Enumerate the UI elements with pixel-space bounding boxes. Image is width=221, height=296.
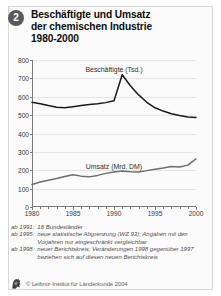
footnote-row: ab 1998:neuer Berichtskreis; Veränderung… [11,246,199,261]
title-line-2: der chemischen Industrie [31,21,152,33]
x-axis-tick-mark [57,207,58,209]
y-axis-tick-label: 600 [18,93,29,100]
y-axis-tick-label: 800 [18,57,29,64]
footnotes: ab 1991:16 Bundesländerab 1995:neue stat… [11,224,199,261]
x-axis-tick-label: 1995 [148,210,163,217]
x-axis-tick-mark [40,207,41,209]
figure-number-badge: 2 [8,10,24,26]
y-axis-tick-label: 300 [18,148,29,155]
footnote-key: ab 1995: [11,231,34,246]
x-axis-tick-label: 1985 [66,210,81,217]
page-title: Beschäftigte und Umsatz der chemischen I… [31,9,152,44]
x-axis-tick-mark [180,207,181,209]
x-axis-tick-mark [163,207,164,209]
chart-plot: 0100200300400500600700800 19801985199019… [32,60,196,207]
x-axis-tick-label: 1990 [107,210,122,217]
x-axis-tick-label: 2000 [189,210,204,217]
x-axis-tick-mark [122,207,123,209]
x-axis-tick-label: 1980 [25,210,40,217]
x-axis-tick-mark [98,207,99,209]
x-axis-tick-mark [65,207,66,209]
footnote-text: 16 Bundesländer [37,224,199,231]
series-label: Umsatz (Mrd. DM) [86,163,142,170]
credit-line: © Leibniz-Institut für Länderkunde 2004 [11,278,128,290]
chart-area: 0100200300400500600700800 19801985199019… [8,52,198,220]
x-axis-tick-mark [48,207,49,209]
x-axis-tick-mark [171,207,172,209]
footnote-key: ab 1991: [11,224,34,231]
title-line-3: 1980-2000 [31,33,152,45]
y-axis-tick-label: 200 [18,167,29,174]
chart-series-svg [32,60,196,207]
x-axis-tick-mark [130,207,131,209]
footnote-row: ab 1991:16 Bundesländer [11,224,199,231]
figure-root: 2 Beschäftigte und Umsatz der chemischen… [0,0,221,296]
title-block: 2 Beschäftigte und Umsatz der chemischen… [8,9,198,44]
series-line [32,75,196,118]
title-line-1: Beschäftigte und Umsatz [31,9,152,21]
footnote-text: neuer Berichtskreis; Veränderungen 1998 … [37,246,199,261]
ifl-lion-logo-icon [11,278,22,290]
x-axis-tick-mark [81,207,82,209]
credit-text: © Leibniz-Institut für Länderkunde 2004 [26,281,128,287]
y-axis-tick-label: 700 [18,75,29,82]
x-axis-tick-mark [139,207,140,209]
footnote-text: neue statistische Abgrenzung (WZ 93); An… [37,231,199,246]
y-axis-tick-label: 400 [18,130,29,137]
series-label: Beschäftigte (Tsd.) [85,66,142,73]
x-axis-tick-mark [106,207,107,209]
footnote-row: ab 1995:neue statistische Abgrenzung (WZ… [11,231,199,246]
y-axis-tick-label: 500 [18,112,29,119]
x-axis-tick-mark [89,207,90,209]
footnote-key: ab 1998: [11,246,34,261]
x-axis-tick-mark [188,207,189,209]
x-axis-tick-mark [147,207,148,209]
y-axis-tick-label: 100 [18,185,29,192]
